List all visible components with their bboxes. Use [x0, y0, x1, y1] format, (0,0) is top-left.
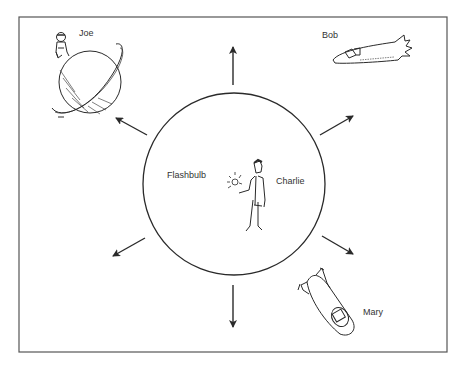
rocket-bob-icon — [333, 35, 412, 63]
arrow-lower-right-icon — [322, 236, 353, 254]
arrow-upper-right-icon — [320, 116, 353, 135]
arrow-upper-left-icon — [116, 118, 147, 135]
joe-figure-icon — [56, 33, 69, 59]
charlie-figure-icon — [239, 160, 265, 231]
label-charlie: Charlie — [276, 176, 305, 186]
arrow-lower-left-icon — [113, 238, 145, 256]
planet-icon — [52, 44, 123, 117]
label-bob: Bob — [322, 30, 338, 40]
diagram-canvas: Joe Bob Flashbulb Charlie Mary — [0, 0, 462, 367]
rocket-mary-icon — [298, 268, 354, 335]
label-flashbulb: Flashbulb — [167, 170, 206, 180]
flashbulb-icon — [227, 172, 242, 188]
label-mary: Mary — [363, 307, 383, 317]
label-joe: Joe — [79, 28, 94, 38]
